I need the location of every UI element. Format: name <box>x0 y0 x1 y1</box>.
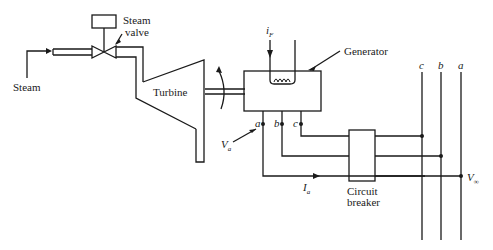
bus-b-label: b <box>438 59 444 71</box>
terminal-b-label: b <box>274 117 280 129</box>
infinite-bus-voltage-label: V∞ <box>467 171 479 188</box>
rotation-arrow <box>219 71 224 109</box>
phase-a-lead <box>263 111 425 176</box>
field-current-label: iF <box>266 24 273 41</box>
current-a-label: Ia <box>303 181 310 198</box>
diagram-canvas <box>0 0 493 250</box>
circuit-breaker-label-2: breaker <box>347 196 380 208</box>
generator <box>244 71 321 111</box>
generator-label: Generator <box>344 45 388 57</box>
voltage-a-label: Va <box>221 138 231 155</box>
field-winding <box>270 40 295 84</box>
turbine-label: Turbine <box>153 86 187 98</box>
bus-a-label: a <box>458 59 464 71</box>
steam-pipe <box>53 49 92 55</box>
phase-c-lead <box>301 111 349 136</box>
bus-c-label: c <box>419 59 424 71</box>
steam-valve-label-1: Steam <box>123 14 151 26</box>
steam-valve-label-2: valve <box>125 26 149 38</box>
valve-actuator <box>92 15 116 28</box>
turbine <box>143 60 204 162</box>
steam-arrow <box>27 51 46 78</box>
steam-label: Steam <box>13 81 41 93</box>
terminal-a-label: a <box>255 117 261 129</box>
shaft <box>205 89 245 94</box>
terminal-c-label: c <box>293 117 298 129</box>
circuit-breaker <box>349 130 375 181</box>
